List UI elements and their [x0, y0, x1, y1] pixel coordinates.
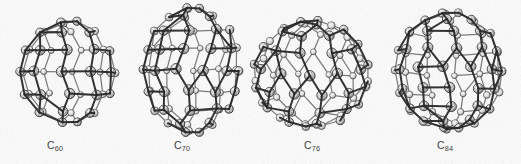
molecular-bond [44, 50, 51, 71]
molecular-bond [72, 50, 81, 72]
caption-atom-count-subscript: 76 [312, 144, 320, 153]
molecular-bond [310, 76, 322, 96]
carbon-atom [299, 91, 305, 97]
carbon-atom [317, 31, 323, 37]
molecular-bond [444, 127, 459, 128]
molecular-bond [110, 72, 111, 93]
carbon-atom [460, 91, 466, 97]
molecular-bond [91, 71, 112, 72]
caption-c84: C84 [405, 140, 485, 151]
caption-atom-count-subscript: 70 [182, 144, 190, 153]
carbon-atom [484, 92, 490, 98]
atom-group [250, 17, 372, 131]
carbon-atom [197, 45, 203, 51]
molecular-bond [423, 88, 424, 106]
carbon-atom [429, 92, 435, 98]
caption-element-symbol: C [304, 139, 312, 151]
carbon-atom [310, 49, 316, 55]
carbon-atom [452, 73, 458, 79]
molecule-model-c84 [381, 0, 517, 144]
carbon-atom [457, 109, 463, 115]
molecular-bond [337, 73, 348, 93]
molecular-bond [418, 66, 443, 67]
caption-atom-count-subscript: 84 [445, 144, 453, 153]
molecular-bond [62, 111, 63, 122]
carbon-atom [350, 73, 356, 79]
carbon-atom [274, 94, 280, 100]
molecular-bond [61, 21, 77, 22]
molecule-model-c60 [5, 7, 129, 137]
caption-element-symbol: C [174, 139, 182, 151]
carbon-atom [68, 110, 74, 116]
molecular-bond [20, 71, 34, 72]
carbon-atom [477, 71, 483, 77]
molecular-bond [143, 69, 155, 70]
molecular-bond [313, 52, 328, 75]
caption-element-symbol: C [47, 139, 55, 151]
molecular-bond [61, 22, 62, 32]
molecular-bond [478, 88, 479, 105]
molecular-bond [160, 49, 184, 50]
molecular-bond [203, 71, 215, 93]
molecular-bond [281, 74, 294, 94]
caption-c70: C70 [142, 140, 222, 151]
molecular-bond [187, 8, 199, 9]
carbon-atom [68, 28, 74, 34]
caption-c76: C76 [272, 140, 352, 151]
molecular-bond [471, 47, 482, 66]
carbon-atom [424, 73, 430, 79]
molecule-model-c76 [239, 6, 383, 142]
molecular-bond [284, 55, 299, 74]
molecular-bond [39, 95, 40, 113]
molecular-bond [155, 110, 164, 111]
bond-group-front [20, 21, 115, 122]
carbon-atom [406, 91, 413, 98]
carbon-atom [328, 22, 335, 29]
fullerene-figure: C60C70C76C84 [0, 0, 521, 164]
molecular-bond [300, 53, 310, 76]
molecular-bond [454, 74, 479, 76]
caption-atom-count-subscript: 60 [55, 144, 63, 153]
carbon-atom [330, 92, 336, 98]
carbon-atom [266, 37, 273, 44]
carbon-atom [260, 55, 267, 62]
carbon-atom [326, 72, 332, 78]
molecular-bond [427, 19, 447, 31]
molecular-bond [217, 109, 229, 110]
carbon-atom [41, 69, 47, 75]
molecular-bond [482, 47, 492, 69]
molecular-bond [424, 106, 451, 107]
molecule-model-c70 [130, 0, 254, 146]
molecular-bond [189, 90, 190, 111]
carbon-atom [296, 71, 302, 77]
atom-group [391, 9, 506, 133]
caption-element-symbol: C [437, 139, 445, 151]
carbon-atom [337, 52, 343, 58]
molecular-bond [155, 71, 164, 92]
molecular-bond [110, 51, 111, 72]
molecular-bond [215, 71, 226, 92]
molecular-bond [215, 92, 216, 108]
carbon-atom [78, 47, 84, 53]
carbon-atom [47, 90, 53, 96]
molecular-bond [176, 69, 189, 90]
caption-c60: C60 [15, 140, 95, 151]
carbon-atom [191, 68, 197, 74]
carbon-atom [216, 66, 222, 72]
